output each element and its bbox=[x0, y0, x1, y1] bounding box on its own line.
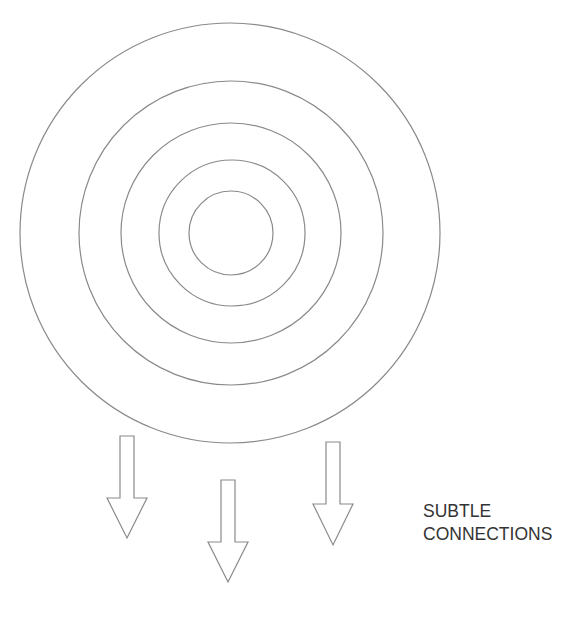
ring-3 bbox=[121, 123, 341, 343]
ring-4 bbox=[79, 81, 383, 385]
label-line-1: SUBTLE bbox=[423, 500, 552, 523]
ring-outer bbox=[20, 23, 440, 443]
diagram-label: SUBTLE CONNECTIONS bbox=[423, 500, 552, 546]
arrows bbox=[107, 436, 353, 582]
ring-2 bbox=[159, 160, 305, 306]
concentric-rings bbox=[20, 23, 440, 443]
down-arrow-icon-right bbox=[313, 442, 353, 545]
down-arrow-icon-left bbox=[107, 436, 147, 538]
label-line-2: CONNECTIONS bbox=[423, 523, 552, 546]
down-arrow-icon-middle bbox=[208, 480, 248, 582]
diagram-canvas bbox=[0, 0, 585, 643]
ring-inner bbox=[189, 191, 273, 275]
